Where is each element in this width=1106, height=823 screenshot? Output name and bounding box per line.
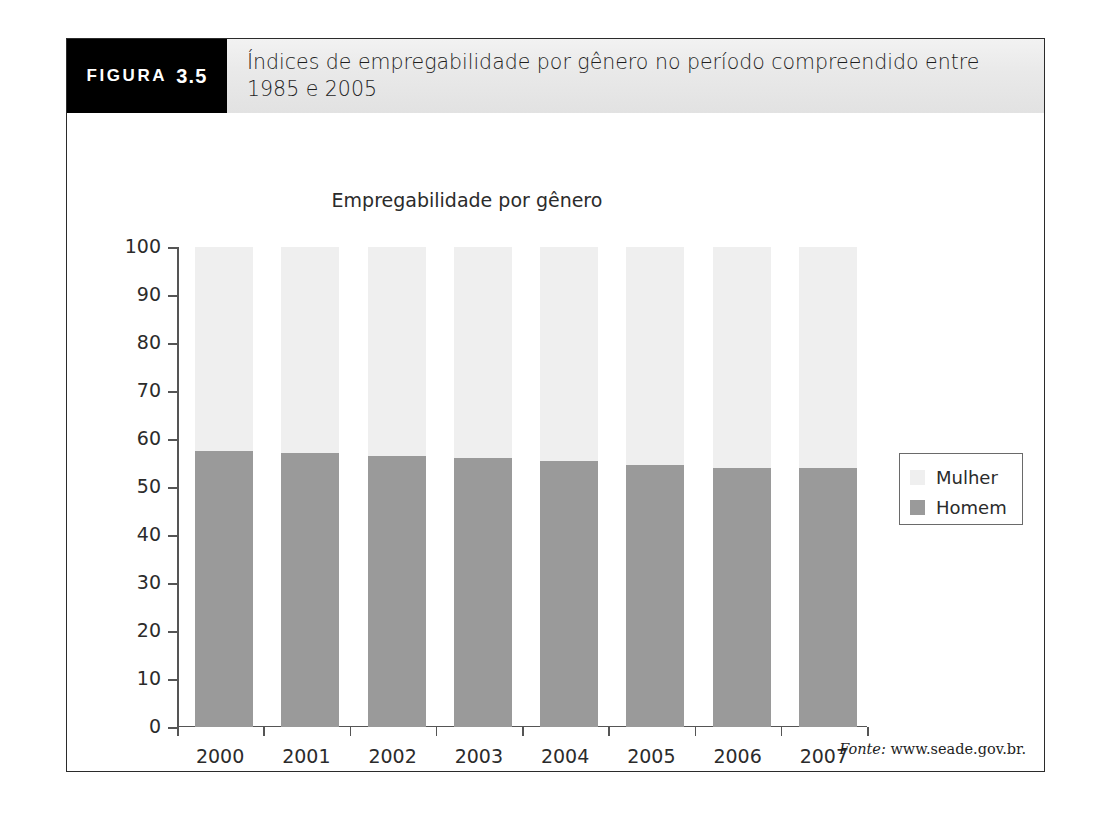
y-axis-tick-mark (168, 727, 177, 729)
bar-segment-mulher[interactable] (454, 247, 512, 458)
bar-segment-mulher[interactable] (540, 247, 598, 461)
bar-group[interactable] (540, 247, 598, 727)
y-axis-line (177, 247, 179, 727)
x-axis-tick-mark (177, 727, 179, 736)
legend-swatch-mulher (910, 470, 925, 485)
figure-header: FIGURA 3.5 Índices de empregabilidade po… (67, 39, 1044, 113)
y-axis-tick-label: 100 (109, 235, 161, 257)
figure-frame: FIGURA 3.5 Índices de empregabilidade po… (66, 38, 1045, 772)
x-axis-tick-label: 2001 (263, 745, 349, 767)
y-axis-tick-label: 30 (109, 571, 161, 593)
bar-segment-homem[interactable] (368, 456, 426, 727)
x-axis-tick-mark (695, 727, 697, 736)
x-axis-tick-label: 2004 (522, 745, 608, 767)
y-axis-tick-mark (168, 583, 177, 585)
bar-group[interactable] (799, 247, 857, 727)
source-value: www.seade.gov.br. (890, 741, 1026, 757)
bar-group[interactable] (454, 247, 512, 727)
bar-segment-mulher[interactable] (713, 247, 771, 468)
y-axis-tick-label: 90 (109, 283, 161, 305)
figure-badge-word: FIGURA (86, 66, 167, 86)
y-axis-tick-label: 50 (109, 475, 161, 497)
legend-item-mulher: Mulher (910, 464, 1022, 490)
bar-segment-homem[interactable] (454, 458, 512, 727)
legend-item-homem: Homem (910, 494, 1022, 520)
chart-area: Empregabilidade por gênero 0102030405060… (67, 113, 1044, 771)
source-label: Fonte: (839, 741, 886, 757)
chart-legend: Mulher Homem (899, 453, 1023, 525)
y-axis-tick-label: 20 (109, 619, 161, 641)
bar-segment-homem[interactable] (713, 468, 771, 727)
x-axis-tick-mark (608, 727, 610, 736)
bar-group[interactable] (368, 247, 426, 727)
x-axis-tick-label: 2000 (177, 745, 263, 767)
bar-segment-homem[interactable] (799, 468, 857, 727)
figure-badge-number: 3.5 (176, 65, 207, 88)
x-axis-tick-mark (350, 727, 352, 736)
y-axis-tick-mark (168, 535, 177, 537)
bar-segment-mulher[interactable] (626, 247, 684, 465)
y-axis-tick-label: 70 (109, 379, 161, 401)
y-axis-tick-mark (168, 391, 177, 393)
bar-group[interactable] (713, 247, 771, 727)
x-axis-tick-mark (263, 727, 265, 736)
bar-segment-mulher[interactable] (281, 247, 339, 453)
bar-segment-homem[interactable] (626, 465, 684, 727)
bar-segment-homem[interactable] (281, 453, 339, 727)
x-axis-tick-label: 2005 (608, 745, 694, 767)
plot-area: 0102030405060708090100 20002001200220032… (177, 247, 867, 727)
legend-label-mulher: Mulher (936, 467, 998, 488)
x-axis-tick-label: 2002 (350, 745, 436, 767)
figure-caption: Índices de empregabilidade por gênero no… (227, 39, 1044, 113)
y-axis-tick-mark (168, 439, 177, 441)
bar-group[interactable] (195, 247, 253, 727)
x-axis-tick-label: 2006 (695, 745, 781, 767)
bar-segment-mulher[interactable] (368, 247, 426, 456)
x-axis-tick-mark (867, 727, 869, 736)
x-axis-tick-mark (781, 727, 783, 736)
y-axis-tick-label: 0 (109, 715, 161, 737)
legend-label-homem: Homem (936, 497, 1007, 518)
chart-title: Empregabilidade por gênero (67, 189, 867, 211)
x-axis-tick-mark (436, 727, 438, 736)
x-axis-tick-mark (522, 727, 524, 736)
y-axis-tick-mark (168, 247, 177, 249)
source-note: Fonte: www.seade.gov.br. (839, 741, 1026, 757)
bar-segment-homem[interactable] (195, 451, 253, 727)
bar-group[interactable] (281, 247, 339, 727)
y-axis-tick-mark (168, 631, 177, 633)
y-axis-tick-label: 10 (109, 667, 161, 689)
y-axis-tick-mark (168, 343, 177, 345)
figure-number-badge: FIGURA 3.5 (67, 39, 227, 113)
y-axis-tick-mark (168, 487, 177, 489)
x-axis-tick-label: 2003 (436, 745, 522, 767)
bar-segment-homem[interactable] (540, 461, 598, 727)
legend-swatch-homem (910, 500, 925, 515)
bar-segment-mulher[interactable] (799, 247, 857, 468)
y-axis-tick-mark (168, 295, 177, 297)
bar-group[interactable] (626, 247, 684, 727)
y-axis-tick-mark (168, 679, 177, 681)
bar-segment-mulher[interactable] (195, 247, 253, 451)
y-axis-tick-label: 60 (109, 427, 161, 449)
y-axis-tick-label: 40 (109, 523, 161, 545)
y-axis-tick-label: 80 (109, 331, 161, 353)
